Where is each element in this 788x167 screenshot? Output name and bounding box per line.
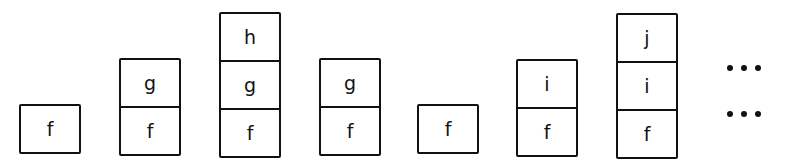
stack-cell: f <box>21 106 79 152</box>
dot-icon <box>741 65 747 71</box>
stack-cell: f <box>518 109 576 155</box>
stack-cell: g <box>321 60 379 108</box>
stack-cell: h <box>221 14 279 62</box>
dot-icon <box>741 111 747 117</box>
dot-icon <box>755 65 761 71</box>
stack-cell: i <box>618 63 676 111</box>
stack-5: f <box>417 104 479 154</box>
stack-6: f i <box>516 59 578 157</box>
stack-cell: g <box>121 60 179 108</box>
dot-icon <box>727 65 733 71</box>
stack-cell: g <box>221 62 279 110</box>
dot-icon <box>727 111 733 117</box>
stack-1: f <box>19 104 81 154</box>
stack-cell: f <box>221 110 279 156</box>
stack-cell: f <box>618 111 676 157</box>
stack-2: f g <box>119 58 181 156</box>
stack-4: f g <box>319 58 381 156</box>
dot-icon <box>755 111 761 117</box>
stack-cell: f <box>419 106 477 152</box>
stack-cell: j <box>618 15 676 63</box>
stack-3: f g h <box>219 12 281 158</box>
ellipsis-upper <box>727 65 761 71</box>
stack-cell: f <box>121 108 179 154</box>
stack-7: f i j <box>616 13 678 159</box>
stack-cell: i <box>518 61 576 109</box>
ellipsis-lower <box>727 111 761 117</box>
stack-cell: f <box>321 108 379 154</box>
